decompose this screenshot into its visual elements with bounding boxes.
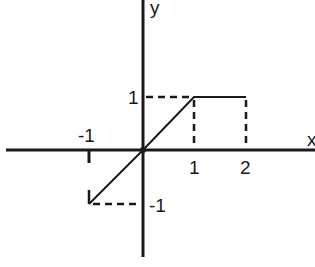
plot-canvas: y x -1 1 2 1 -1 bbox=[0, 0, 315, 267]
y-tick-label-neg1: -1 bbox=[149, 195, 166, 216]
y-tick-label-1: 1 bbox=[128, 87, 139, 108]
x-tick-label-1: 1 bbox=[189, 157, 200, 178]
y-axis-label: y bbox=[150, 0, 160, 18]
x-axis-label: x bbox=[307, 129, 315, 150]
x-tick-label-2: 2 bbox=[240, 157, 251, 178]
function-graph: y x -1 1 2 1 -1 bbox=[0, 0, 315, 267]
x-tick-label-neg1: -1 bbox=[78, 125, 95, 146]
origin-dot bbox=[140, 147, 146, 153]
